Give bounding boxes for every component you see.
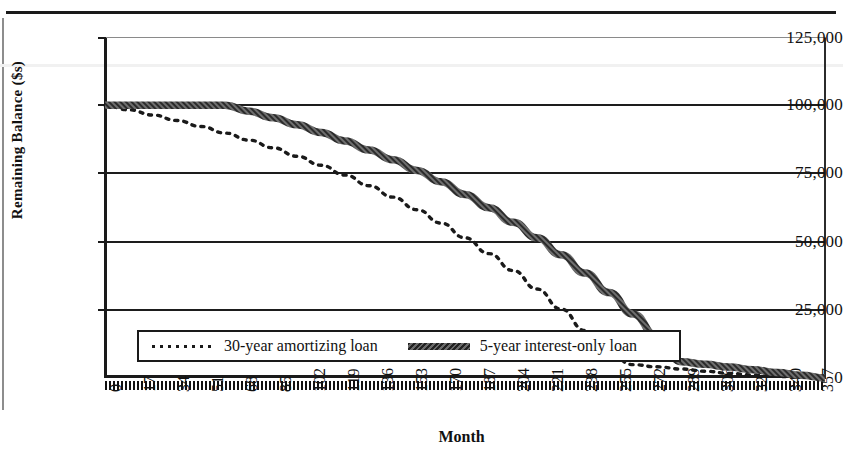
y-tick-mark-50000 [98,241,106,243]
plot-top-edge [104,37,826,38]
x-tick-label-119: 119 [346,372,362,392]
dotted-line-swatch-icon [152,345,214,348]
y-tick-mark-75000 [98,172,106,174]
y-tick-mark-125000 [98,37,106,39]
x-tick-label-153: 153 [414,372,430,392]
x-axis-title-wrapper: Month [0,428,843,446]
legend-label-5-year-interest-only: 5-year interest-only loan [480,338,637,354]
chart-figure: 125,000 100,000 75,000 50,000 25,000 0 R… [0,0,843,456]
legend-label-30-year-amortizing: 30-year amortizing loan [224,338,378,354]
y-tick-label-50000: 50,000 [751,233,843,250]
x-tick-label-204: 204 [516,372,532,392]
x-tick-label-51: 51 [210,372,226,392]
x-tick-label-340: 340 [788,372,804,392]
y-tick-mark-25000 [98,309,106,311]
thick-solid-line-swatch-icon [408,343,470,350]
x-tick-label-323: 323 [754,372,770,392]
y-tick-label-125000: 125,000 [751,29,843,46]
y-tick-mark-100000 [98,104,106,106]
x-tick-label-170: 170 [448,372,464,392]
x-tick-label-102: 102 [312,372,328,392]
x-tick-label-221: 221 [550,372,566,392]
x-tick-label-357: 357 [820,372,836,392]
x-tick-label-136: 136 [380,372,396,392]
x-tick-label-34: 34 [176,372,192,392]
x-tick-label-272: 272 [652,372,668,392]
x-tick-label-255: 255 [618,372,634,392]
plot-right-edge [824,38,826,379]
legend: 30-year amortizing loan 5-year interest-… [137,330,681,362]
y-axis-title: Remaining Balance ($s) [9,61,25,219]
y-axis-title-wrapper: Remaining Balance ($s) [8,0,32,290]
plot-frame [104,38,825,378]
x-axis-title: Month [358,428,484,445]
legend-entry-5-year-interest-only: 5-year interest-only loan [378,332,637,360]
y-tick-label-100000: 100,000 [751,96,843,113]
x-tick-label-68: 68 [244,372,260,392]
x-tick-label-0: 0 [108,372,124,392]
x-tick-label-306: 306 [720,372,736,392]
x-tick-label-85: 85 [278,372,294,392]
y-tick-label-25000: 25,000 [751,301,843,318]
x-tick-label-238: 238 [584,372,600,392]
legend-entry-30-year-amortizing: 30-year amortizing loan [139,332,378,360]
x-tick-label-289: 289 [686,372,702,392]
x-tick-label-17: 17 [142,372,158,392]
x-tick-label-187: 187 [482,372,498,392]
y-tick-label-75000: 75,000 [751,164,843,181]
